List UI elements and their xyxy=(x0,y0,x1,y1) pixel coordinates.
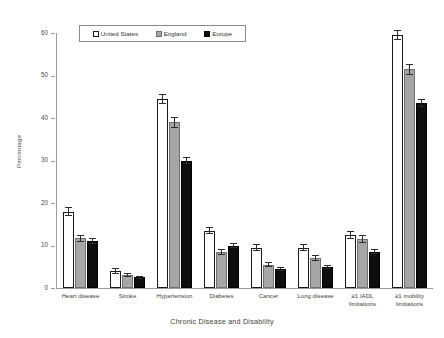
bar-en[interactable] xyxy=(310,33,321,288)
bar-en[interactable] xyxy=(169,33,180,288)
bar-rect xyxy=(369,252,380,288)
y-tick-label: 20 xyxy=(41,199,48,206)
y-tick-label: 50 xyxy=(41,71,48,78)
bar-us[interactable] xyxy=(63,33,74,288)
bar-group: Diabetes xyxy=(198,33,245,288)
bar-group-bars xyxy=(386,33,433,288)
y-axis-title: Percentage xyxy=(15,112,22,192)
bar-group-bars xyxy=(104,33,151,288)
bar-rect xyxy=(216,252,227,288)
plot-area: 0102030405060 Heart diseaseStrokeHyperte… xyxy=(57,33,433,288)
bar-eu[interactable] xyxy=(369,33,380,288)
bar-group-bars xyxy=(198,33,245,288)
error-bar-cap-top xyxy=(253,244,260,245)
bar-rect xyxy=(416,103,427,288)
bar-eu[interactable] xyxy=(275,33,286,288)
bar-group: ≥1 IADL limitations xyxy=(339,33,386,288)
error-bar-cap-top xyxy=(394,30,401,31)
bar-rect xyxy=(298,248,309,288)
error-bar-cap-top xyxy=(265,262,272,263)
bar-eu[interactable] xyxy=(134,33,145,288)
error-bar-cap-top xyxy=(230,243,237,244)
chart-figure: Percentage United StatesEnglandEurope 01… xyxy=(0,0,444,338)
bar-group: Cancer xyxy=(245,33,292,288)
error-bar-cap-top xyxy=(77,235,84,236)
error-bar-cap-top xyxy=(159,94,166,95)
bar-rect xyxy=(75,238,86,288)
y-tick-label: 0 xyxy=(44,284,48,291)
bar-us[interactable] xyxy=(345,33,356,288)
error-bar-cap-top xyxy=(300,244,307,245)
error-bar-cap-top xyxy=(324,265,331,266)
error-bar-cap-top xyxy=(65,207,72,208)
bar-group-bars xyxy=(245,33,292,288)
bar-en[interactable] xyxy=(75,33,86,288)
bar-us[interactable] xyxy=(110,33,121,288)
bar-rect xyxy=(181,161,192,289)
bar-eu[interactable] xyxy=(87,33,98,288)
y-tick-mark xyxy=(51,76,55,77)
error-bar-cap-top xyxy=(183,157,190,158)
error-bar-cap-top xyxy=(89,238,96,239)
bar-eu[interactable] xyxy=(322,33,333,288)
bar-group: Lung disease xyxy=(292,33,339,288)
error-bar-cap-top xyxy=(359,235,366,236)
bar-group: ≥1 mobility limitations xyxy=(386,33,433,288)
error-bar-cap-top xyxy=(406,64,413,65)
bar-en[interactable] xyxy=(357,33,368,288)
error-bar-cap-top xyxy=(124,273,131,274)
y-tick-mark xyxy=(51,246,55,247)
bar-rect xyxy=(251,248,262,288)
y-tick-label: 60 xyxy=(41,29,48,36)
bar-rect xyxy=(169,122,180,288)
y-tick-label: 40 xyxy=(41,114,48,121)
bar-group-bars xyxy=(292,33,339,288)
bar-en[interactable] xyxy=(216,33,227,288)
bar-rect xyxy=(157,99,168,288)
bar-us[interactable] xyxy=(392,33,403,288)
bar-rect xyxy=(122,275,133,288)
bar-group: Stroke xyxy=(104,33,151,288)
bar-group: Heart disease xyxy=(57,33,104,288)
bar-rect xyxy=(392,35,403,288)
error-bar-cap-top xyxy=(112,268,119,269)
bar-eu[interactable] xyxy=(228,33,239,288)
bar-en[interactable] xyxy=(263,33,274,288)
bar-group-bars xyxy=(339,33,386,288)
x-axis-line xyxy=(56,288,433,289)
bar-us[interactable] xyxy=(204,33,215,288)
y-tick-mark xyxy=(51,203,55,204)
y-tick-label: 30 xyxy=(41,156,48,163)
error-bar-cap-top xyxy=(312,255,319,256)
bar-en[interactable] xyxy=(404,33,415,288)
y-tick-mark xyxy=(51,33,55,34)
y-tick-mark xyxy=(51,288,55,289)
bar-group-bars xyxy=(151,33,198,288)
bar-rect xyxy=(263,265,274,288)
error-bar-cap-top xyxy=(218,249,225,250)
bar-us[interactable] xyxy=(157,33,168,288)
error-bar-cap-top xyxy=(171,117,178,118)
bar-group: Hypertension xyxy=(151,33,198,288)
bar-rect xyxy=(345,235,356,288)
error-bar-cap-top xyxy=(371,249,378,250)
bar-rect xyxy=(228,246,239,289)
error-bar-cap-top xyxy=(206,227,213,228)
bar-rect xyxy=(357,239,368,288)
y-tick-mark xyxy=(51,118,55,119)
error-bar-cap-top xyxy=(347,231,354,232)
bar-eu[interactable] xyxy=(181,33,192,288)
bar-en[interactable] xyxy=(122,33,133,288)
x-tick-label: ≥1 mobility limitations xyxy=(382,292,438,307)
bar-rect xyxy=(204,231,215,288)
bar-group-bars xyxy=(57,33,104,288)
bar-rect xyxy=(404,69,415,288)
bar-rect xyxy=(87,241,98,288)
bar-us[interactable] xyxy=(251,33,262,288)
bar-eu[interactable] xyxy=(416,33,427,288)
bar-us[interactable] xyxy=(298,33,309,288)
y-tick-mark xyxy=(51,161,55,162)
bar-rect xyxy=(275,269,286,288)
bar-rect xyxy=(63,212,74,289)
bar-rect xyxy=(310,258,321,288)
